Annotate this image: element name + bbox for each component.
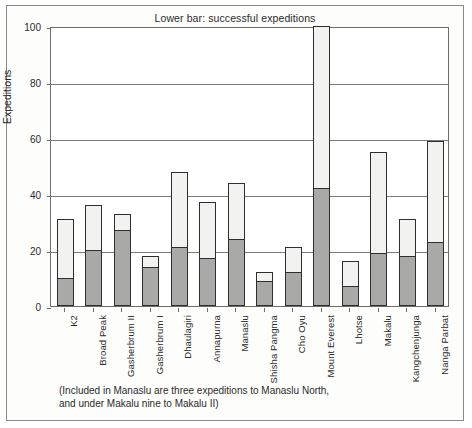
x-tick-mark <box>292 308 293 312</box>
chart-annotation: (Included in Manaslu are three expeditio… <box>59 384 449 410</box>
x-tick-label: Nanga Parbat <box>439 315 450 375</box>
y-tick-label: 40 <box>30 190 41 201</box>
x-tick-label: Broad Peak <box>97 315 108 366</box>
bar-successful-expeditions[interactable] <box>370 253 387 306</box>
x-tick-label: Dhaulagiri <box>182 315 193 359</box>
bar-stack[interactable] <box>199 26 216 306</box>
bar-successful-expeditions[interactable] <box>399 256 416 306</box>
bar-successful-expeditions[interactable] <box>57 278 74 306</box>
bar-stack[interactable] <box>171 26 188 306</box>
bar-stack[interactable] <box>285 26 302 306</box>
x-tick-mark <box>64 308 65 312</box>
x-tick-mark <box>435 308 436 312</box>
annotation-line: (Included in Manaslu are three expeditio… <box>59 384 449 397</box>
chart-title: Lower bar: successful expeditions <box>7 12 463 24</box>
x-tick-mark <box>406 308 407 312</box>
x-tick-label: Annapurna <box>211 315 222 362</box>
y-tick-label: 100 <box>24 22 41 33</box>
bar-stack[interactable] <box>370 26 387 306</box>
bar-stack[interactable] <box>114 26 131 306</box>
y-tick-label: 20 <box>30 246 41 257</box>
x-tick-label: Lhotse <box>353 315 364 344</box>
bar-stack[interactable] <box>256 26 273 306</box>
x-tick-mark <box>235 308 236 312</box>
x-tick-label: Shisha Pangma <box>268 315 279 383</box>
bar-stack[interactable] <box>342 26 359 306</box>
gridline <box>51 252 448 253</box>
x-tick-label: Kangchenjunga <box>410 315 421 382</box>
y-tick-mark <box>47 28 51 29</box>
bar-successful-expeditions[interactable] <box>142 267 159 306</box>
bar-stack[interactable] <box>399 26 416 306</box>
bar-successful-expeditions[interactable] <box>85 250 102 306</box>
bar-successful-expeditions[interactable] <box>256 281 273 306</box>
x-tick-mark <box>121 308 122 312</box>
bar-successful-expeditions[interactable] <box>427 242 444 306</box>
chart-figure: Lower bar: successful expeditions 020406… <box>6 5 464 421</box>
x-tick-mark <box>207 308 208 312</box>
x-tick-label: Mount Everest <box>325 315 336 378</box>
y-tick-label: 0 <box>35 302 41 313</box>
bar-stack[interactable] <box>313 26 330 306</box>
x-tick-mark <box>150 308 151 312</box>
bar-stack[interactable] <box>57 26 74 306</box>
annotation-line: and under Makalu nine to Makalu II) <box>59 397 449 410</box>
bar-successful-expeditions[interactable] <box>114 230 131 306</box>
x-tick-label: Manaslu <box>239 315 250 352</box>
bar-successful-expeditions[interactable] <box>228 239 245 306</box>
x-tick-label: Cho Oyu <box>296 315 307 353</box>
x-tick-mark <box>378 308 379 312</box>
x-tick-mark <box>321 308 322 312</box>
y-tick-label: 80 <box>30 78 41 89</box>
x-tick-mark <box>178 308 179 312</box>
gridline <box>51 140 448 141</box>
gridline <box>51 196 448 197</box>
bar-successful-expeditions[interactable] <box>313 188 330 306</box>
bar-stack[interactable] <box>85 26 102 306</box>
x-tick-mark <box>264 308 265 312</box>
x-tick-mark <box>349 308 350 312</box>
plot-area <box>50 27 449 307</box>
y-axis-title: Expeditions <box>1 4 13 124</box>
x-tick-label: Gasherbrum I <box>154 315 165 374</box>
bar-stack[interactable] <box>228 26 245 306</box>
x-tick-label: Makalu <box>382 315 393 346</box>
bar-successful-expeditions[interactable] <box>171 247 188 306</box>
bar-stack[interactable] <box>427 26 444 306</box>
bar-successful-expeditions[interactable] <box>199 258 216 306</box>
bar-successful-expeditions[interactable] <box>342 286 359 306</box>
x-tick-mark <box>93 308 94 312</box>
bar-successful-expeditions[interactable] <box>285 272 302 306</box>
x-tick-label: Gasherbrum II <box>125 315 136 377</box>
x-tick-label: K2 <box>68 315 79 327</box>
bar-stack[interactable] <box>142 26 159 306</box>
gridline <box>51 84 448 85</box>
y-tick-label: 60 <box>30 134 41 145</box>
